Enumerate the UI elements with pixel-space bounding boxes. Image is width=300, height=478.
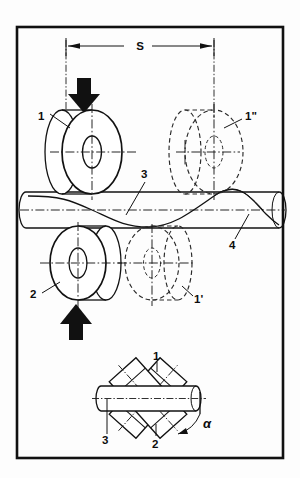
roller-bottom-solid: 2 <box>30 222 122 310</box>
workpiece-bar <box>19 192 286 228</box>
label-roller-1-double-prime: 1" <box>245 110 257 122</box>
roller-top-phantom: 1" <box>169 104 257 200</box>
plan-label-bar-3: 3 <box>102 434 108 446</box>
bottom-force-arrow <box>60 304 92 340</box>
label-roller-1: 1 <box>38 110 45 122</box>
dim-arrowhead-left <box>68 43 80 49</box>
plan-label-roller-2: 2 <box>152 438 158 450</box>
helix-trace-line <box>28 189 279 227</box>
roller-bottom-phantom: 1' <box>118 224 203 306</box>
top-force-arrow <box>68 78 100 113</box>
phantom-bottom-leader <box>182 286 193 296</box>
label-roller-2: 2 <box>30 288 36 300</box>
roller-top-solid: 1 <box>38 104 136 200</box>
dim-arrowhead-right <box>200 43 212 49</box>
label-roller-1-prime: 1' <box>194 293 203 305</box>
label-workpiece-3: 3 <box>141 168 147 180</box>
label-helix-group: 4 <box>229 214 249 251</box>
label-angle-alpha: α <box>203 416 212 431</box>
dimension-s-label: S <box>136 40 144 52</box>
alpha-arrowhead <box>178 428 188 434</box>
plan-view-crossed-rolls: 1 2 3 α <box>92 350 212 450</box>
label-helix-4: 4 <box>229 239 236 251</box>
technical-diagram-svg: S <box>0 0 300 478</box>
plan-bar-3 <box>92 386 206 411</box>
helix-leader <box>235 214 249 239</box>
plan-label-roller-1: 1 <box>153 350 160 362</box>
figure-canvas: S <box>0 0 300 478</box>
